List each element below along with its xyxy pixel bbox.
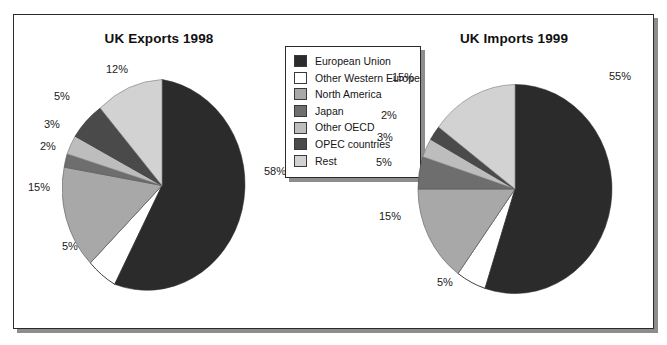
legend-label-north-america: North America [315,89,382,100]
pie-chart-exports [62,78,262,293]
legend-swatch-north-america [294,88,307,100]
pie-imports-svg [416,83,614,295]
chart-title-exports: UK Exports 1998 [14,31,304,46]
pct-label-imports-rest: 15% [392,72,414,83]
pct-label-imports-other-western-europe: 5% [437,277,453,288]
chart-panel-imports: UK Imports 1999 [374,15,654,330]
pct-label-imports-north-america: 15% [379,211,401,222]
legend-swatch-opec-countries [294,138,307,150]
pct-label-imports-opec: 2% [381,110,397,121]
pct-label-exports-rest: 12% [106,64,128,75]
legend-label-other-oecd: Other OECD [315,122,375,133]
figure-frame: UK Exports 1998 [13,14,654,329]
legend-label-rest: Rest [315,156,337,167]
pct-label-exports-japan: 2% [40,141,56,152]
chart-panel-exports: UK Exports 1998 [14,15,304,330]
pct-label-exports-other-western-europe: 5% [62,241,78,252]
pct-label-exports-other-oecd: 3% [44,119,60,130]
figure-root: UK Exports 1998 [0,0,667,345]
legend-swatch-rest [294,155,307,167]
pct-label-imports-european-union: 55% [609,71,631,82]
pct-label-exports-opec: 5% [54,91,70,102]
pie-imports-slices [418,85,612,294]
pct-label-imports-japan: 5% [376,157,392,168]
legend-swatch-european-union [294,55,307,67]
pie-exports-slices [62,80,245,291]
pct-label-imports-other-oecd: 3% [377,132,393,143]
chart-title-imports: UK Imports 1999 [374,31,654,46]
pct-label-exports-north-america: 15% [28,182,50,193]
legend-swatch-other-oecd [294,122,307,134]
legend-swatch-other-western-europe [294,72,307,84]
legend-label-japan: Japan [315,106,344,117]
pie-exports-svg [62,78,262,293]
pct-label-exports-european-union: 58% [264,166,286,177]
pie-chart-imports [416,83,614,295]
legend-swatch-japan [294,105,307,117]
